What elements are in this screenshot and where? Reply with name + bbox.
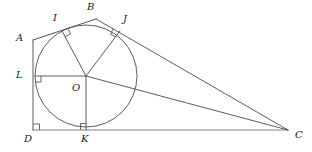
label-point-l: L [16, 70, 23, 80]
label-point-a: A [16, 33, 23, 43]
label-point-b: B [87, 2, 94, 12]
segment-a-b [33, 19, 96, 40]
label-point-d: D [24, 134, 32, 144]
label-point-c: C [295, 130, 303, 140]
right-angle-mark-i [65, 28, 71, 36]
label-point-k: K [81, 134, 88, 144]
label-point-o: O [72, 83, 80, 93]
segment-o-c [86, 76, 288, 130]
label-point-i: I [53, 13, 57, 23]
segment-b-c [96, 19, 288, 130]
radius-o-j [86, 31, 120, 76]
geometry-canvas [0, 0, 312, 152]
right-angle-mark-l [35, 76, 41, 82]
label-point-j: J [123, 14, 127, 24]
geometry-figure: A B C D I J K L O [0, 0, 312, 152]
radius-o-i [62, 31, 86, 76]
right-angle-mark-d [33, 124, 40, 130]
